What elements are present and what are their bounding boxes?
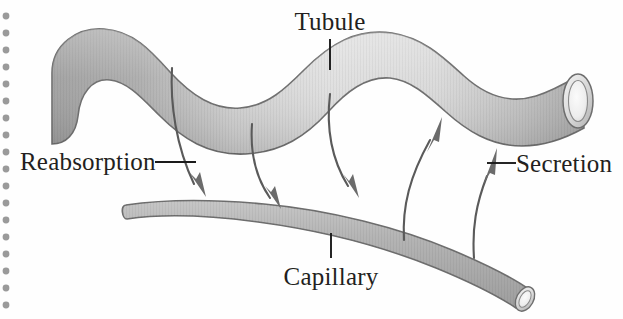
reabsorption-arrow-3 xyxy=(329,94,359,198)
capillary-texture xyxy=(115,190,545,319)
tubule-structure xyxy=(40,20,600,165)
capillary-label: Capillary xyxy=(284,263,379,290)
tubule-texture xyxy=(40,20,600,165)
tubule-label: Tubule xyxy=(294,8,365,35)
secretion-arrow-1 xyxy=(404,117,442,240)
capillary-structure xyxy=(115,190,545,319)
reabsorption-label: Reabsorption xyxy=(20,148,156,175)
diagram-canvas: Tubule Capillary Reabsorption Secretion xyxy=(0,0,623,319)
tubule-lumen xyxy=(563,74,593,128)
secretion-arrow-2 xyxy=(474,148,497,258)
figure-root: Tubule Capillary Reabsorption Secretion xyxy=(0,0,623,319)
spiral-binding-holes xyxy=(3,13,10,309)
secretion-label: Secretion xyxy=(516,150,613,177)
